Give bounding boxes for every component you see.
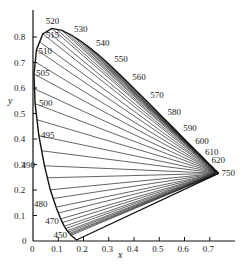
- x-tick-label: 0: [30, 244, 35, 254]
- wavelength-label-540: 540: [96, 38, 110, 48]
- wavelength-label-510: 510: [39, 46, 53, 56]
- y-tick-label: 0.5: [14, 109, 26, 119]
- wavelength-label-530: 530: [74, 24, 88, 34]
- tie-line: [37, 50, 219, 174]
- x-tick-label: 0.6: [178, 244, 190, 254]
- wavelength-label-515: 515: [46, 30, 60, 40]
- y-tick-label: 0: [22, 236, 27, 246]
- wavelength-label-520: 520: [46, 16, 60, 26]
- wavelength-label-750: 750: [222, 168, 236, 178]
- tie-line: [43, 34, 219, 173]
- x-tick-label: 0.5: [152, 244, 164, 254]
- x-tick-label: 0.3: [102, 244, 114, 254]
- wavelength-label-490: 490: [21, 160, 35, 170]
- wavelength-label-580: 580: [167, 107, 181, 117]
- tie-line: [52, 28, 219, 173]
- x-tick-label: 0.1: [51, 244, 62, 254]
- wavelength-label-620: 620: [212, 155, 226, 165]
- wavelength-label-470: 470: [45, 216, 59, 226]
- x-tick-label: 0.4: [127, 244, 139, 254]
- chromaticity-diagram: 00.10.20.30.40.50.60.7 00.10.20.30.40.50…: [0, 0, 248, 272]
- tie-line: [67, 173, 218, 230]
- y-axis-label: y: [7, 95, 13, 106]
- wavelength-label-505: 505: [36, 68, 50, 78]
- wavelength-label-570: 570: [150, 90, 164, 100]
- y-tick-label: 0.8: [14, 32, 26, 42]
- x-axis-label: x: [117, 249, 123, 260]
- wavelength-label-495: 495: [41, 130, 55, 140]
- wavelength-label-550: 550: [114, 54, 128, 64]
- tie-line: [66, 173, 219, 228]
- y-tick-label: 0.4: [14, 134, 26, 144]
- tie-line: [57, 29, 219, 173]
- tie-line: [39, 136, 219, 174]
- wavelength-label-480: 480: [34, 199, 48, 209]
- wavelength-label-600: 600: [195, 136, 209, 146]
- tie-line: [35, 104, 218, 174]
- tie-line: [35, 62, 218, 173]
- tie-line: [64, 173, 218, 226]
- wavelength-labels: 4504704804904955005055105155205305405505…: [21, 16, 235, 240]
- tie-line: [44, 166, 218, 174]
- tie-line: [56, 173, 218, 207]
- tie-line: [61, 173, 219, 219]
- wavelength-label-590: 590: [183, 123, 197, 133]
- x-tick-label: 0.7: [203, 244, 215, 254]
- purple-line: [77, 173, 219, 239]
- tie-line: [47, 31, 218, 173]
- y-tick-label: 0.7: [14, 58, 26, 68]
- y-tick-label: 0.6: [14, 83, 26, 93]
- y-tick-label: 0.2: [14, 185, 25, 195]
- y-tick-label: 0.1: [14, 211, 25, 221]
- wavelength-label-450: 450: [54, 230, 68, 240]
- wavelength-label-560: 560: [132, 72, 146, 82]
- wavelength-label-500: 500: [39, 98, 53, 108]
- x-tick-label: 0.2: [77, 244, 88, 254]
- diagram-canvas: 00.10.20.30.40.50.60.7 00.10.20.30.40.50…: [0, 0, 248, 272]
